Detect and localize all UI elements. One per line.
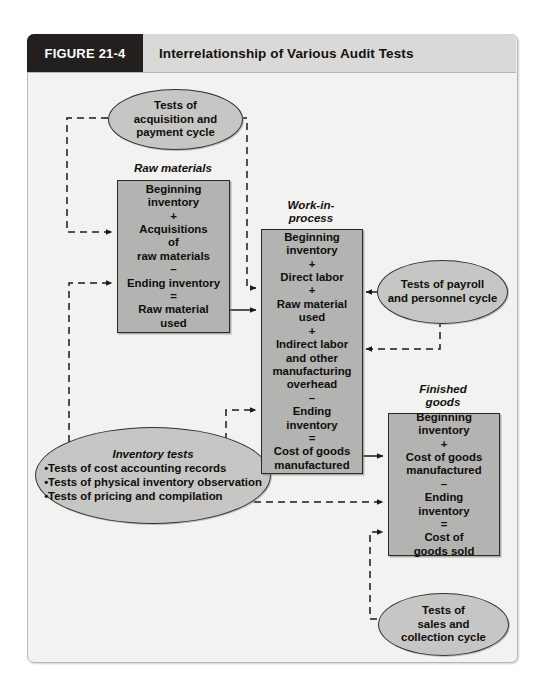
rm-l5: of [168,236,179,248]
fg-l2: + [441,438,448,450]
rm-l8: Ending inventory [127,277,220,289]
wip-l2: inventory [286,244,337,256]
acq-line-2: acquisition and [134,113,218,125]
wip-l10: and other [286,352,338,364]
work-in-process-caption: Work-in- process [256,199,366,224]
figure-title-bar: Interrelationship of Various Audit Tests [143,34,516,72]
rm-l11: used [160,317,187,329]
wip-caption-line-2: process [289,211,333,224]
wip-l9: Indirect labor [276,338,348,350]
wip-l8: + [309,325,316,337]
wip-l11: manufacturing [272,365,351,377]
acq-line-1: Tests of [154,99,197,111]
work-in-process-box[interactable]: Beginning inventory + Direct labor + Raw… [261,229,363,474]
rm-l6: raw materials [137,250,210,262]
raw-materials-box[interactable]: Beginning inventory + Acquisitions of ra… [117,180,230,333]
fg-caption-line-2: goods [426,395,461,408]
figure-header: FIGURE 21-4 Interrelationship of Various… [27,34,516,72]
wip-l7: used [299,311,326,323]
wip-l3: + [309,258,316,270]
fg-l10: goods sold [414,545,475,557]
tests-of-payroll-and-personnel-cycle-oval[interactable]: Tests of payroll and personnel cycle [377,260,508,324]
payroll-line-1: Tests of payroll [401,278,484,290]
wip-caption-line-1: Work-in- [288,198,335,211]
figure-title: Interrelationship of Various Audit Tests [159,46,414,61]
wip-l5: + [309,284,316,296]
rm-l10: Raw material [138,303,208,315]
wip-l1: Beginning [284,231,340,243]
tests-of-acquisition-and-payment-cycle-oval[interactable]: Tests of acquisition and payment cycle [108,89,243,150]
figure-number-tag: FIGURE 21-4 [27,34,143,72]
wip-l4: Direct labor [280,271,343,283]
figure-screenshot: FIGURE 21-4 Interrelationship of Various… [0,0,543,694]
fg-l6: Ending [425,491,464,503]
fg-caption-line-1: Finished [419,382,467,395]
wip-l15: inventory [286,419,337,431]
inventory-test-item-2: •Tests of physical inventory observation [44,476,262,488]
wip-l16: = [309,432,316,444]
inventory-test-item-1: •Tests of cost accounting records [44,462,226,474]
wip-l18: manufactured [274,459,349,471]
inventory-test-item-3: •Tests of pricing and compilation [44,490,222,502]
fg-l4: manufactured [406,464,481,476]
tests-of-sales-and-collection-cycle-oval[interactable]: Tests of sales and collection cycle [378,593,509,656]
rm-l4: Acquisitions [139,223,207,235]
sales-line-1: Tests of [422,604,465,616]
wip-l12: overhead [287,378,338,390]
figure-number-label: FIGURE 21-4 [45,46,126,61]
wip-l13: – [309,392,315,404]
sales-line-3: collection cycle [401,631,486,643]
rm-l2: inventory [148,196,199,208]
rm-l9: = [170,290,177,302]
finished-goods-caption: Finished goods [388,383,498,408]
finished-goods-box[interactable]: Beginning inventory + Cost of goods manu… [388,413,500,556]
fg-l1: Beginning inventory [416,411,472,436]
fg-l5: – [441,478,447,490]
fg-l8: = [441,518,448,530]
raw-materials-caption: Raw materials [117,162,229,175]
fg-l9: Cost of [424,531,463,543]
rm-l7: – [170,263,176,275]
inventory-tests-oval[interactable]: Inventory tests •Tests of cost accountin… [35,427,271,524]
payroll-line-2: and personnel cycle [388,292,498,304]
rm-l1: Beginning [146,183,202,195]
rm-l3: + [170,210,177,222]
fg-l3: Cost of goods [406,451,483,463]
sales-line-2: sales and [418,618,470,630]
acq-line-3: payment cycle [136,126,215,138]
fg-l7: inventory [418,505,469,517]
wip-l14: Ending [293,405,332,417]
wip-l6: Raw material [277,298,347,310]
inventory-tests-heading: Inventory tests [44,448,262,462]
wip-l17: Cost of goods [274,445,351,457]
